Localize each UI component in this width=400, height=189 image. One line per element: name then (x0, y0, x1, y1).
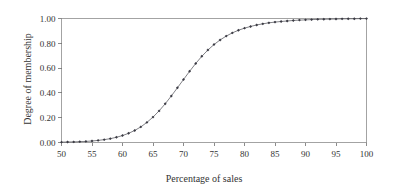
x-tick-label: 65 (149, 149, 159, 159)
data-series-membership (60, 17, 368, 143)
y-tick-label: 0.60 (40, 63, 56, 73)
y-tick-label: 0.40 (40, 88, 56, 98)
x-tick-label: 70 (179, 149, 189, 159)
data-point-marker (66, 141, 69, 144)
series-line (62, 19, 367, 143)
sigmoid-line-chart: 50556065707580859095100 0.000.200.400.60… (0, 0, 400, 189)
data-point-marker (286, 20, 289, 23)
y-axis-title: Degree of membership (22, 33, 33, 125)
data-point-marker (103, 138, 106, 141)
data-point-marker (237, 29, 240, 32)
data-point-marker (60, 141, 63, 144)
x-axis-ticks (62, 143, 367, 147)
data-point-marker (115, 136, 118, 139)
plot-frame (62, 19, 367, 143)
x-tick-label: 60 (118, 149, 128, 159)
x-tick-label: 85 (271, 149, 281, 159)
series-markers (60, 17, 368, 143)
data-point-marker (267, 21, 270, 24)
y-tick-label: 1.00 (40, 14, 56, 24)
data-point-marker (109, 137, 112, 140)
y-tick-label: 0.80 (40, 39, 56, 49)
data-point-marker (91, 140, 94, 143)
data-point-marker (97, 139, 100, 142)
x-tick-label: 95 (332, 149, 342, 159)
data-point-marker (249, 25, 252, 28)
data-point-marker (347, 17, 350, 20)
x-tick-label: 100 (360, 149, 374, 159)
data-point-marker (255, 23, 258, 26)
data-point-marker (280, 20, 283, 23)
data-point-marker (298, 19, 301, 22)
y-tick-label: 0.20 (40, 113, 56, 123)
x-axis-title: Percentage of sales (166, 173, 243, 184)
data-point-marker (353, 17, 356, 20)
y-tick-label: 0.00 (40, 138, 56, 148)
data-point-marker (261, 22, 264, 25)
chart-figure: 50556065707580859095100 0.000.200.400.60… (0, 0, 400, 189)
data-point-marker (231, 31, 234, 34)
x-axis-tick-labels: 50556065707580859095100 (57, 149, 374, 159)
data-point-marker (274, 21, 277, 24)
data-point-marker (335, 18, 338, 21)
data-point-marker (121, 134, 124, 137)
y-axis-ticks (58, 19, 62, 143)
data-point-marker (133, 129, 136, 132)
data-point-marker (359, 17, 362, 20)
data-point-marker (243, 27, 246, 30)
y-axis-tick-labels: 0.000.200.400.600.801.00 (40, 14, 56, 148)
data-point-marker (292, 19, 295, 22)
data-point-marker (365, 17, 368, 20)
x-tick-label: 90 (301, 149, 311, 159)
data-point-marker (127, 132, 130, 135)
data-point-marker (341, 17, 344, 20)
x-tick-label: 50 (57, 149, 67, 159)
x-tick-label: 80 (240, 149, 250, 159)
x-tick-label: 75 (210, 149, 220, 159)
x-tick-label: 55 (88, 149, 98, 159)
